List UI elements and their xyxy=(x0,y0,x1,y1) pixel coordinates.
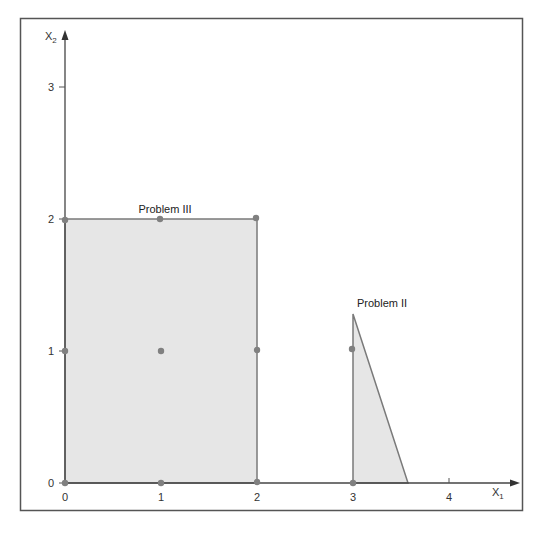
point-1-1 xyxy=(158,348,164,354)
point-3-1 xyxy=(349,346,355,352)
point-2-2 xyxy=(253,215,259,221)
y-tick-label-1: 1 xyxy=(48,345,54,357)
point-1-0 xyxy=(158,480,164,486)
x-tick-label-4: 4 xyxy=(446,491,452,503)
y-tick-label-0: 0 xyxy=(48,477,54,489)
point-0-1 xyxy=(62,348,68,354)
feasible-region-diagram: 0 1 2 3 4 3 2 1 0 X1 X2 Problem III Prob… xyxy=(0,0,539,533)
y-tick-label-2: 2 xyxy=(48,213,54,225)
point-0-0 xyxy=(62,480,68,486)
point-2-1 xyxy=(254,347,260,353)
y-tick-label-3: 3 xyxy=(48,81,54,93)
point-3-0 xyxy=(350,480,356,486)
x-tick-label-0: 0 xyxy=(62,491,68,503)
label-problem-iii: Problem III xyxy=(138,203,191,215)
point-1-2 xyxy=(157,216,163,222)
x-tick-label-1: 1 xyxy=(158,491,164,503)
point-2-0 xyxy=(254,479,260,485)
point-0-2 xyxy=(62,217,68,223)
x-tick-label-3: 3 xyxy=(350,491,356,503)
label-problem-ii: Problem II xyxy=(357,297,407,309)
x-tick-label-2: 2 xyxy=(254,491,260,503)
